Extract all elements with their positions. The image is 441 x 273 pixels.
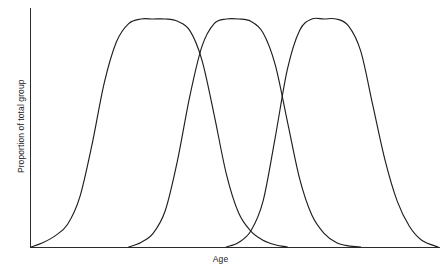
y-axis-label: Proportion of total group	[17, 58, 26, 194]
chart-figure: Proportion of total group Age	[0, 0, 441, 273]
x-axis-label: Age	[0, 255, 441, 264]
distribution-curve-2	[129, 19, 361, 247]
chart-plot-area	[0, 0, 441, 273]
distribution-curve-3	[226, 18, 438, 247]
distribution-curve-1	[31, 19, 287, 247]
